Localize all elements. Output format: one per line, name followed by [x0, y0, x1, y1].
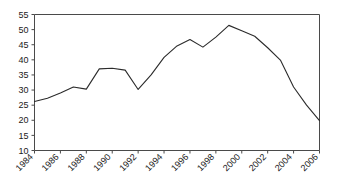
y-tick-label: 15 [18, 131, 28, 141]
y-tick-label: 25 [18, 100, 28, 110]
y-tick-label: 50 [18, 25, 28, 35]
y-tick-label: 40 [18, 55, 28, 65]
y-tick-label: 20 [18, 115, 28, 125]
y-tick-label: 30 [18, 85, 28, 95]
y-tick-label: 45 [18, 40, 28, 50]
y-tick-label: 35 [18, 70, 28, 80]
line-chart: 10152025303540455055 1984198619881990199… [0, 0, 338, 186]
chart-container: 10152025303540455055 1984198619881990199… [0, 0, 338, 186]
y-tick-label: 55 [18, 10, 28, 20]
